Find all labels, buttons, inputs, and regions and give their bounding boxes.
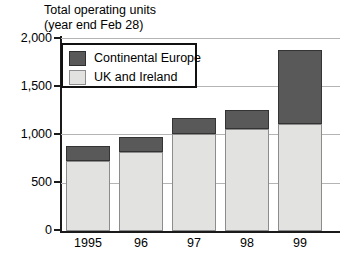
bar-segment-continental-europe-99[interactable] bbox=[278, 50, 322, 124]
chart-title-block: Total operating units (year end Feb 28) bbox=[44, 3, 156, 33]
legend-label-continental-europe: Continental Europe bbox=[94, 52, 201, 65]
bar-segment-uk-and-ireland-97[interactable] bbox=[172, 134, 216, 231]
bar-segment-uk-and-ireland-1995[interactable] bbox=[66, 161, 110, 231]
y-axis-tick-labels: 2,000 1,500 1,000 500 0 bbox=[0, 0, 52, 261]
bar-segment-continental-europe-96[interactable] bbox=[119, 137, 163, 152]
x-axis-tick-label-96: 96 bbox=[111, 236, 171, 250]
chart-legend: Continental Europe UK and Ireland bbox=[61, 43, 197, 88]
legend-label-uk-and-ireland: UK and Ireland bbox=[94, 71, 177, 84]
y-axis-tick-label-1000: 1,000 bbox=[4, 128, 52, 140]
light-gray-swatch-icon bbox=[69, 70, 86, 85]
legend-item-continental-europe[interactable]: Continental Europe bbox=[69, 50, 201, 67]
bar-segment-continental-europe-97[interactable] bbox=[172, 118, 216, 134]
bar-segment-uk-and-ireland-98[interactable] bbox=[225, 129, 269, 231]
gridline-2000 bbox=[61, 38, 340, 39]
legend-item-uk-and-ireland[interactable]: UK and Ireland bbox=[69, 69, 177, 86]
y-axis-tick-label-2000: 2,000 bbox=[4, 32, 52, 44]
bar-segment-continental-europe-1995[interactable] bbox=[66, 146, 110, 161]
x-axis-tick-label-99: 99 bbox=[270, 236, 330, 250]
y-axis-tick-label-0: 0 bbox=[4, 224, 52, 236]
x-axis-tick-label-97: 97 bbox=[164, 236, 224, 250]
x-axis-tick-label-98: 98 bbox=[217, 236, 277, 250]
chart-subtitle: (year end Feb 28) bbox=[44, 18, 156, 33]
bar-segment-continental-europe-98[interactable] bbox=[225, 110, 269, 129]
stacked-bar-chart: Total operating units (year end Feb 28) … bbox=[0, 0, 347, 261]
x-axis-line bbox=[61, 231, 340, 233]
x-axis-tick-label-1995: 1995 bbox=[58, 236, 118, 250]
y-axis-tick-label-500: 500 bbox=[4, 176, 52, 188]
bar-segment-uk-and-ireland-96[interactable] bbox=[119, 152, 163, 231]
bar-segment-uk-and-ireland-99[interactable] bbox=[278, 124, 322, 231]
y-axis-tick-label-1500: 1,500 bbox=[4, 80, 52, 92]
chart-title: Total operating units bbox=[44, 3, 156, 18]
dark-gray-swatch-icon bbox=[69, 51, 86, 66]
